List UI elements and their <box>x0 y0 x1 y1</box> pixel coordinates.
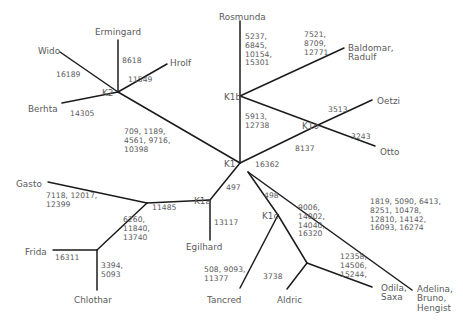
taxon-label-hrolf: Hrolf <box>170 59 191 68</box>
node-label-k1: K1 <box>224 160 235 169</box>
mutation-label-k1o-k1: 16362 <box>255 161 279 170</box>
taxon-label-wido: Wido <box>38 47 60 56</box>
mutation-label-ermingard-k2: 8618 <box>122 57 142 66</box>
taxon-label-chlothar: Chlothar <box>74 296 112 305</box>
mutation-label-hrolf-k2: 11549 <box>128 76 152 85</box>
mutation-label-k2-k1: 709, 1189, 4561, 9716, 10398 <box>124 128 170 154</box>
mutation-label-k1a-k1: 497 <box>226 184 241 193</box>
taxon-label-baldomar-radulf: Baldomar, Radulf <box>348 44 394 63</box>
mutation-label-baldomar-radulf-k1b: 7521, 8709, 12771 <box>304 31 328 57</box>
taxon-label-rosmunda: Rosmunda <box>219 13 266 22</box>
taxon-label-berhta: Berhta <box>28 105 58 114</box>
mutation-label-adelina-bruno-hengist-k1: 1819, 5090, 6413, 8251, 10478, 12810, 14… <box>370 198 441 233</box>
mutation-label-berhta-k2: 14305 <box>70 110 94 119</box>
node-label-k2: K2 <box>102 89 113 98</box>
mutation-label-k1c-k1: 498 <box>264 192 279 201</box>
mutation-label-otto-k1o: 3243 <box>351 133 371 142</box>
mutation-label-aldric-n-aldric: 3738 <box>263 273 283 282</box>
taxon-label-otto: Otto <box>380 148 399 157</box>
mutation-label-n-frida-n-gasto: 6260, 11840, 13740 <box>123 216 150 242</box>
taxon-label-oetzi: Oetzi <box>377 97 400 106</box>
mutation-label-gasto-n-gasto: 7118, 12017, 12399 <box>46 192 97 210</box>
node-label-k1b: K1b <box>224 93 241 102</box>
mutation-label-k1b-k1: 5913, 12738 <box>245 113 269 131</box>
taxon-label-tancred: Tancred <box>207 296 242 305</box>
taxon-label-adelina-bruno-hengist: Adelina, Bruno, Hengist <box>417 285 453 313</box>
mutation-label-tancred-k1c: 508, 9093, 11377 <box>204 266 246 284</box>
node-label-k1c: K1c <box>262 212 278 221</box>
taxon-label-gasto: Gasto <box>16 180 42 189</box>
mutation-label-n-gasto-k1a: 11485 <box>152 204 176 213</box>
mutation-label-rosmunda-k1b: 5237, 6845, 10154, 15301 <box>245 33 272 68</box>
taxon-label-egilhard: Egilhard <box>186 243 222 252</box>
mutation-label-n-aldric-k1c: 9006, 14002, 14040, 16320 <box>298 204 325 239</box>
mutation-label-frida-n-frida: 16311 <box>55 254 79 263</box>
node-label-k1o: K1o <box>302 122 319 131</box>
taxon-label-ermingard: Ermingard <box>95 28 141 37</box>
mutation-label-odila-saxa-n-aldric: 12358, 14506, 15244, <box>340 253 367 279</box>
mutation-label-wido-k2: 16189 <box>56 71 80 80</box>
mutation-label-egilhard-k1a: 13117 <box>214 219 238 228</box>
node-label-k1a: K1a <box>194 197 211 206</box>
mutation-label-k1b-k1o: 8137 <box>295 145 315 154</box>
mutation-label-oetzi-k1o: 3513 <box>328 106 348 115</box>
taxon-label-frida: Frida <box>25 248 47 257</box>
taxon-label-aldric: Aldric <box>277 296 302 305</box>
branch-aldric-to-n-aldric <box>287 263 307 289</box>
taxon-label-odila-saxa: Odila, Saxa <box>381 284 407 303</box>
mutation-label-chlothar-n-frida: 3394, 5093 <box>101 262 123 280</box>
